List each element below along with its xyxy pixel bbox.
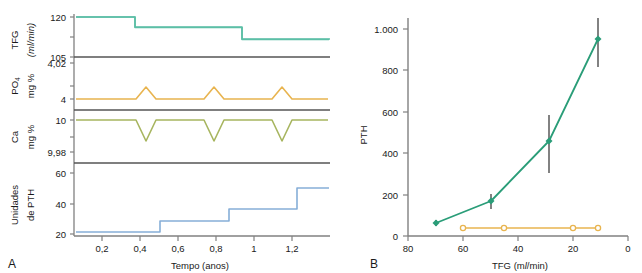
panel-b-xtick-label-40: 40	[513, 243, 524, 254]
panel-b-xtick-label-60: 60	[458, 243, 469, 254]
pth-axis-title-line2: de PTH	[25, 189, 36, 221]
ca-ytick-label-10: 10	[55, 115, 66, 126]
ca-ytick-label-998: 9,98	[48, 147, 67, 158]
pth-elevado-point-70	[433, 220, 440, 227]
po4-axis-title-main: PO	[9, 81, 20, 95]
po4-ytick-label-4: 4	[61, 94, 66, 105]
panel-a-xtick-label-1: 0,4	[133, 243, 146, 254]
pth-axis-title-line1: Unidades	[9, 185, 20, 225]
panel-b-x-ticks: 80 60 40 20 0	[403, 236, 631, 254]
panel-a-x-ticks: 0,2 0,4 0,6 0,8 1 1,2	[95, 236, 298, 254]
panel-b-xtick-label-80: 80	[403, 243, 414, 254]
panel-a-xtick-label-0: 0,2	[95, 243, 108, 254]
panel-b-y-axis-title: PTH	[358, 125, 369, 144]
panel-b-ytick-label-1000: 1.000	[374, 24, 398, 35]
pth-normal-point-45	[501, 225, 506, 230]
panel-a-letter: A	[8, 257, 16, 271]
track-ca: 10 9,98 Ca mg %	[9, 115, 328, 158]
po4-axis-title-line2: mg %	[25, 73, 36, 98]
po4-trace	[76, 87, 328, 99]
pth-ytick-label-40: 40	[55, 199, 66, 210]
pth-normal-point-60	[460, 225, 465, 230]
pth-normal-point-20	[570, 225, 575, 230]
panel-a-svg: 120 105 TFG (ml/min) 4,02 4 PO4 mg %	[0, 0, 330, 273]
tfg-ytick-label-120: 120	[50, 12, 66, 23]
track-po4: 4,02 4 PO4 mg %	[9, 58, 328, 105]
track-tfg: 120 105 TFG (ml/min)	[9, 12, 330, 63]
panel-a-x-axis-title: Tempo (anos)	[171, 260, 229, 271]
panel-b: 0 200 400 600 800 1.000 PTH 80 60 40 20 …	[330, 0, 642, 273]
pth-ytick-label-20: 20	[55, 229, 66, 240]
po4-axis-title-line1: PO4	[9, 77, 21, 95]
ca-axis-title-line2: mg %	[25, 124, 36, 149]
panel-b-ytick-label-400: 400	[382, 148, 398, 159]
panel-b-ytick-label-600: 600	[382, 107, 398, 118]
panel-a-xtick-label-4: 1	[251, 243, 256, 254]
pth-normal-point-11	[595, 225, 600, 230]
tfg-axis-title-line2: (ml/min)	[25, 23, 36, 57]
track-pth: 60 40 20 Unidades de PTH	[9, 168, 329, 240]
panel-b-ytick-label-200: 200	[382, 190, 398, 201]
panel-b-svg: 0 200 400 600 800 1.000 PTH 80 60 40 20 …	[330, 0, 642, 273]
panel-b-letter: B	[370, 257, 378, 271]
panel-a-xtick-label-2: 0,6	[171, 243, 184, 254]
ca-trace	[76, 120, 328, 141]
panel-b-xtick-label-20: 20	[568, 243, 579, 254]
panel-a-xtick-label-3: 0,8	[209, 243, 222, 254]
panel-a-xtick-label-5: 1,2	[285, 243, 298, 254]
panel-b-ytick-label-0: 0	[393, 231, 398, 242]
po4-ytick-label-402: 4,02	[48, 58, 67, 69]
tfg-trace-tail	[76, 17, 329, 40]
panel-b-x-axis-title: TFG (ml/min)	[492, 260, 548, 271]
panel-b-ytick-label-800: 800	[382, 65, 398, 76]
series-pth-elevado	[433, 18, 602, 227]
pth-elevado-line	[436, 39, 598, 223]
series-pth-normal	[460, 225, 600, 230]
ca-axis-title-line1: Ca	[9, 130, 20, 143]
tfg-axis-title-line1: TFG	[9, 31, 20, 50]
pth-elevado-point-11	[595, 36, 602, 43]
panel-b-xtick-label-0: 0	[625, 243, 630, 254]
panel-b-y-ticks: 0 200 400 600 800 1.000	[374, 24, 408, 242]
panel-a: 120 105 TFG (ml/min) 4,02 4 PO4 mg %	[0, 0, 330, 273]
pth-ytick-label-60: 60	[55, 168, 66, 179]
figure-container: 120 105 TFG (ml/min) 4,02 4 PO4 mg %	[0, 0, 642, 273]
pth-trace	[76, 188, 329, 232]
